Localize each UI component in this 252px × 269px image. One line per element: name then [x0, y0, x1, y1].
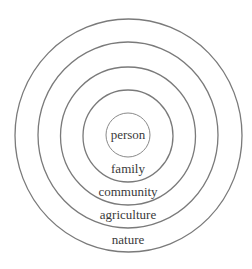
- label-family: family: [111, 161, 145, 176]
- label-community: community: [98, 184, 158, 199]
- label-agriculture: agriculture: [100, 207, 157, 222]
- label-nature: nature: [112, 232, 145, 247]
- concentric-circles-diagram: person family community agriculture natu…: [0, 0, 252, 269]
- label-person: person: [111, 127, 146, 142]
